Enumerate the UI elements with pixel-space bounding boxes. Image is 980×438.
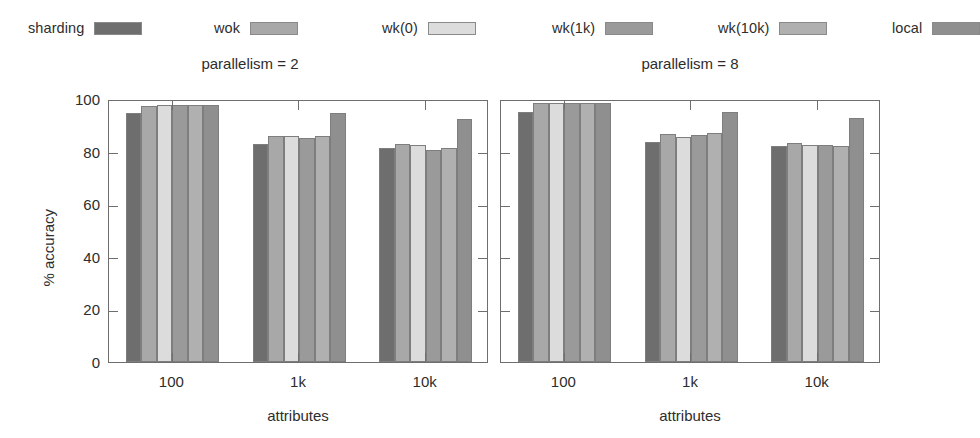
y-tick bbox=[109, 206, 118, 207]
chart-legend: shardingwokwk(0)wk(1k)wk(10k)local bbox=[0, 18, 947, 52]
y-tick bbox=[501, 206, 510, 207]
legend-label: wok bbox=[214, 20, 240, 36]
bar bbox=[441, 148, 457, 362]
legend-item-sharding: sharding bbox=[28, 18, 142, 38]
bar bbox=[580, 103, 596, 362]
x-tick bbox=[564, 353, 565, 362]
y-tick bbox=[501, 153, 510, 154]
bar bbox=[564, 103, 580, 362]
y-axis-title: % accuracy bbox=[40, 177, 57, 287]
y-tick-label: 0 bbox=[56, 354, 100, 371]
legend-item-local: local bbox=[892, 18, 980, 38]
chart-panel-parallelism-8: parallelism = 8 1001k10k attributes bbox=[470, 55, 947, 438]
panel-title: parallelism = 8 bbox=[500, 55, 880, 72]
bar bbox=[518, 112, 534, 362]
legend-item-wok: wok bbox=[214, 18, 298, 38]
x-tick-label: 10k bbox=[772, 373, 862, 390]
plot-area bbox=[108, 100, 488, 363]
bar bbox=[787, 143, 803, 362]
y-tick bbox=[870, 258, 879, 259]
x-axis-title: attributes bbox=[500, 407, 880, 424]
bar bbox=[722, 112, 738, 362]
bar bbox=[549, 103, 565, 362]
legend-label: wk(10k) bbox=[718, 20, 769, 36]
x-tick-label: 100 bbox=[518, 373, 608, 390]
bar bbox=[533, 103, 549, 362]
y-tick bbox=[870, 206, 879, 207]
x-tick-label: 100 bbox=[126, 373, 216, 390]
legend-swatch bbox=[250, 22, 298, 35]
x-tick bbox=[425, 101, 426, 110]
x-tick bbox=[172, 353, 173, 362]
legend-swatch bbox=[428, 22, 476, 35]
y-tick bbox=[109, 311, 118, 312]
bar bbox=[691, 135, 707, 362]
bar bbox=[802, 145, 818, 362]
bars-layer bbox=[109, 101, 487, 362]
bar bbox=[676, 137, 692, 362]
bar bbox=[849, 118, 865, 362]
y-tick-label: 80 bbox=[56, 144, 100, 161]
bar bbox=[660, 134, 676, 362]
legend-swatch bbox=[94, 22, 142, 35]
bar bbox=[253, 144, 269, 362]
bar bbox=[707, 133, 723, 362]
x-axis-title: attributes bbox=[108, 407, 488, 424]
x-tick-label: 1k bbox=[645, 373, 735, 390]
bar bbox=[284, 136, 300, 362]
bar bbox=[833, 146, 849, 362]
bar bbox=[395, 144, 411, 362]
bar bbox=[141, 106, 157, 362]
bar bbox=[410, 145, 426, 362]
y-tick bbox=[870, 153, 879, 154]
panel-title: parallelism = 2 bbox=[0, 55, 500, 72]
legend-label: local bbox=[892, 20, 922, 36]
plot-area bbox=[500, 100, 880, 363]
legend-swatch bbox=[779, 22, 827, 35]
bar bbox=[595, 103, 611, 362]
legend-label: wk(0) bbox=[382, 20, 418, 36]
y-tick bbox=[870, 311, 879, 312]
legend-swatch bbox=[605, 22, 653, 35]
legend-item-wk0: wk(0) bbox=[382, 18, 476, 38]
x-tick bbox=[298, 353, 299, 362]
bar bbox=[379, 148, 395, 362]
x-tick bbox=[172, 101, 173, 110]
bar bbox=[771, 146, 787, 362]
x-tick bbox=[690, 101, 691, 110]
y-tick-label: 40 bbox=[56, 249, 100, 266]
bar bbox=[645, 142, 661, 362]
y-tick bbox=[501, 311, 510, 312]
legend-label: wk(1k) bbox=[552, 20, 595, 36]
y-tick bbox=[109, 153, 118, 154]
bar bbox=[426, 150, 442, 362]
x-tick bbox=[817, 101, 818, 110]
bar bbox=[818, 145, 834, 362]
y-tick-label: 60 bbox=[56, 196, 100, 213]
bars-layer bbox=[501, 101, 879, 362]
legend-swatch bbox=[932, 22, 980, 35]
x-tick-label: 10k bbox=[380, 373, 470, 390]
legend-item-wk1k: wk(1k) bbox=[552, 18, 653, 38]
bar bbox=[203, 105, 219, 362]
x-tick bbox=[425, 353, 426, 362]
y-tick bbox=[109, 258, 118, 259]
legend-label: sharding bbox=[28, 20, 84, 36]
y-tick bbox=[501, 258, 510, 259]
x-tick bbox=[564, 101, 565, 110]
x-tick-label: 1k bbox=[253, 373, 343, 390]
y-tick-label: 20 bbox=[56, 301, 100, 318]
x-tick bbox=[690, 353, 691, 362]
x-tick bbox=[817, 353, 818, 362]
bar bbox=[172, 105, 188, 362]
bar bbox=[188, 105, 204, 362]
bar bbox=[315, 136, 331, 362]
chart-panel-parallelism-2: parallelism = 2 020406080100 1001k10k % … bbox=[0, 55, 500, 438]
y-tick-label: 100 bbox=[56, 91, 100, 108]
bar bbox=[330, 113, 346, 362]
bar bbox=[268, 136, 284, 362]
bar bbox=[299, 138, 315, 362]
bar bbox=[126, 113, 142, 362]
x-tick bbox=[298, 101, 299, 110]
legend-item-wk10k: wk(10k) bbox=[718, 18, 827, 38]
